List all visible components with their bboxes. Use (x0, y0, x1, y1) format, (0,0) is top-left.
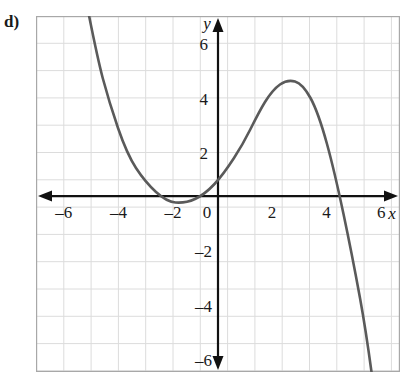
y-tick-label: 2 (200, 144, 209, 163)
y-tick-label: 6 (200, 35, 209, 54)
y-tick-label: 4 (200, 90, 209, 109)
y-tick-label: –4 (194, 297, 213, 316)
figure-container: d) (0, 0, 416, 382)
x-tick-label: 2 (268, 203, 277, 222)
x-tick-label: 6 (377, 203, 386, 222)
coordinate-graph: –6 –4 –2 0 2 4 6 6 4 2 –2 –4 –6 x y (36, 16, 400, 372)
x-tick-label: 4 (322, 203, 331, 222)
x-tick-label: 0 (203, 203, 212, 222)
graph-plot-area: –6 –4 –2 0 2 4 6 6 4 2 –2 –4 –6 x y (36, 16, 400, 372)
problem-part-label: d) (4, 12, 19, 32)
y-tick-label: –6 (194, 351, 212, 370)
x-axis-label: x (387, 204, 396, 223)
x-tick-label: –6 (54, 203, 72, 222)
x-tick-label: –4 (109, 203, 128, 222)
y-tick-label: –2 (194, 242, 212, 261)
y-axis-label: y (201, 16, 211, 33)
x-tick-label: –2 (164, 203, 182, 222)
